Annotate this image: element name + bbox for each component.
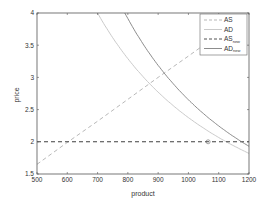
legend: ASADASnewADnew: [200, 14, 247, 55]
x-tick-label: 800: [122, 176, 133, 183]
y-tick-label: 3: [30, 74, 34, 81]
x-tick-label: 700: [92, 176, 103, 183]
legend-label: AD: [224, 26, 233, 33]
y-tick-label: 2.5: [25, 106, 34, 113]
x-axis-label: product: [131, 190, 154, 198]
x-tick-label: 1000: [181, 176, 196, 183]
legend-label: AS: [224, 16, 233, 23]
y-axis-label: price: [13, 87, 21, 102]
x-tick-label: 900: [153, 176, 164, 183]
y-tick-label: 2: [30, 138, 34, 145]
y-tick-label: 4: [30, 9, 34, 16]
chart: 5006007008009001000110012001.522.533.54 …: [0, 0, 268, 205]
x-tick-label: 1100: [212, 176, 226, 183]
y-tick-label: 3.5: [25, 42, 34, 49]
x-tick-label: 1200: [242, 176, 257, 183]
x-tick-label: 600: [62, 176, 73, 183]
y-tick-label: 1.5: [25, 170, 34, 177]
